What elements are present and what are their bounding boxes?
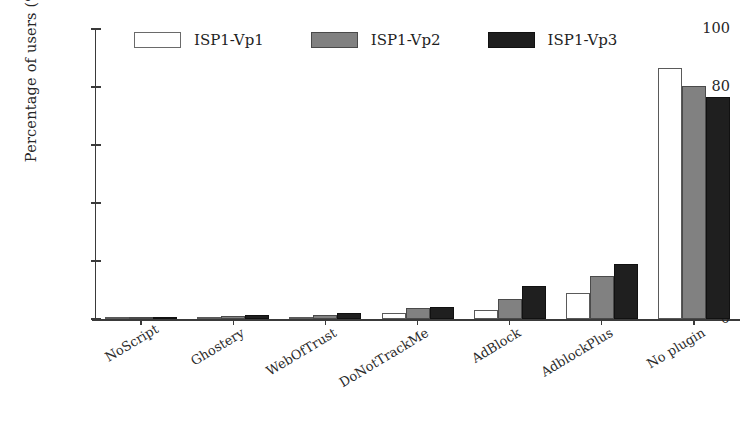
bar [197, 317, 221, 319]
bar [614, 264, 638, 319]
x-tick-mark [693, 319, 694, 325]
y-tick-mark-inner [96, 260, 101, 261]
bar [153, 317, 177, 319]
bar [474, 310, 498, 319]
bar-group [382, 29, 454, 319]
bar [658, 68, 682, 319]
bar [590, 276, 614, 320]
bar [498, 299, 522, 319]
y-tick-mark [91, 202, 96, 203]
y-tick-mark-inner [96, 28, 101, 29]
bar-group [658, 29, 730, 319]
bar [522, 286, 546, 319]
bar [289, 317, 313, 319]
x-tick-mark [417, 319, 418, 325]
y-tick-mark-inner [96, 86, 101, 87]
y-tick-mark-inner [96, 144, 101, 145]
y-tick-mark-inner [96, 202, 101, 203]
bar [682, 86, 706, 319]
bar [430, 307, 454, 319]
x-tick-mark [233, 319, 234, 325]
y-tick-mark [91, 260, 96, 261]
bar-chart-figure: Percentage of users (%) ISP1-Vp1ISP1-Vp2… [0, 0, 749, 424]
bar [566, 293, 590, 319]
bar [706, 97, 730, 319]
y-tick-mark-inner [96, 318, 101, 319]
x-tick-label: NoScript [102, 325, 154, 365]
y-axis-label: Percentage of users (%) [18, 0, 44, 222]
x-tick-mark [509, 319, 510, 325]
bar-group [197, 29, 269, 319]
bar [105, 317, 129, 319]
bar [129, 317, 153, 319]
bar [337, 313, 361, 319]
bar [382, 313, 406, 319]
y-tick-mark [91, 318, 96, 319]
bar-group [289, 29, 361, 319]
y-axis-spine [95, 29, 96, 319]
y-tick-mark [91, 144, 96, 145]
x-tick-mark [601, 319, 602, 325]
x-tick-mark [140, 319, 141, 325]
bar [406, 308, 430, 319]
bar-group [474, 29, 546, 319]
bar [221, 316, 245, 319]
bar-group [566, 29, 638, 319]
plot-area: 020406080100 NoScriptGhosteryWebOfTrustD… [95, 29, 740, 319]
bar-group [105, 29, 177, 319]
x-tick-mark [325, 319, 326, 325]
bar [245, 315, 269, 319]
y-tick-mark [91, 28, 96, 29]
y-tick-mark [91, 86, 96, 87]
bar [313, 315, 337, 319]
